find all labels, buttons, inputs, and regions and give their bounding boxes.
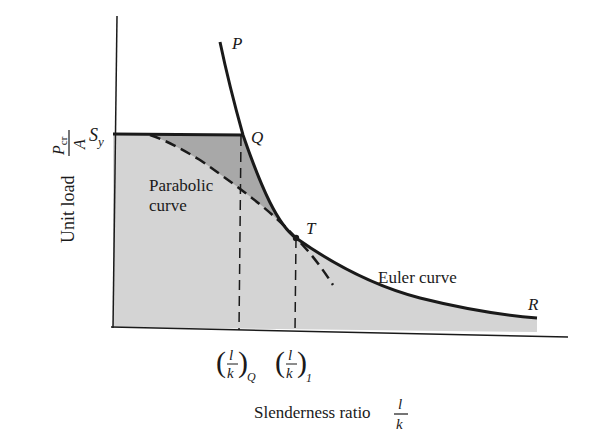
- svg-text:Slenderness ratio: Slenderness ratio: [254, 403, 371, 422]
- svg-text:l: l: [288, 347, 292, 363]
- label-t: T: [306, 219, 317, 238]
- yield-strength-line: [113, 134, 243, 135]
- svg-text:k: k: [286, 365, 293, 381]
- parabolic-curve-label-line2: curve: [149, 196, 187, 215]
- svg-text:1: 1: [306, 371, 312, 385]
- label-r: R: [527, 295, 539, 314]
- svg-text:k: k: [396, 416, 403, 432]
- label-sy: Sy: [89, 125, 104, 149]
- svg-text:Q: Q: [247, 370, 256, 384]
- safe-region-fill: [113, 135, 537, 332]
- svg-text:(: (: [275, 345, 285, 379]
- svg-text:l: l: [398, 396, 402, 412]
- tangent-point-marker: [293, 235, 299, 241]
- label-q: Q: [251, 128, 263, 147]
- euler-curve-label: Euler curve: [378, 268, 457, 287]
- x-axis-label: Slenderness ratio l k: [254, 396, 408, 432]
- label-p: P: [231, 34, 242, 53]
- svg-text:Unit load: Unit load: [58, 176, 78, 244]
- column-buckling-diagram: P Q T R Sy Parabolic curve Euler curve U…: [0, 0, 603, 438]
- svg-text:Pcr: Pcr: [50, 136, 69, 156]
- x-tick-lk-q: ( l k ) Q: [216, 345, 256, 384]
- svg-text:l: l: [229, 347, 233, 363]
- svg-text:(: (: [216, 345, 226, 379]
- x-tick-lk-1: ( l k ) 1: [275, 345, 312, 385]
- y-axis-label: Unit load Pcr A: [50, 130, 88, 243]
- parabolic-curve-label-line1: Parabolic: [149, 176, 214, 195]
- svg-text:A: A: [71, 139, 88, 150]
- svg-text:k: k: [227, 365, 234, 381]
